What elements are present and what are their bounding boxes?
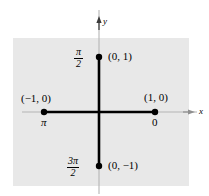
parameter-label-right: 0 <box>152 117 158 128</box>
y-axis-label: y <box>103 17 107 26</box>
data-point-right <box>152 109 158 115</box>
point-label-top: (0, 1) <box>108 51 132 62</box>
parameter-label-bottom: 3π 2 <box>67 156 79 178</box>
figure-container: y x (0, 1) (1, 0) (−1, 0) (0, −1) π 2 3π… <box>0 0 209 196</box>
data-point-left <box>41 109 47 115</box>
data-point-top <box>96 54 102 60</box>
data-point-bottom <box>96 163 102 169</box>
point-label-bottom: (0, −1) <box>108 160 138 171</box>
parameter-bottom-numerator: 3π <box>67 156 79 166</box>
point-label-left: (−1, 0) <box>21 93 51 104</box>
parameter-top-numerator: π <box>75 47 82 57</box>
point-label-right: (1, 0) <box>144 92 168 103</box>
y-axis-arrowhead <box>96 16 101 30</box>
x-axis-label: x <box>199 107 203 116</box>
parameter-label-left: π <box>41 117 47 128</box>
parameter-top-denominator: 2 <box>75 59 82 69</box>
parameter-label-top: π 2 <box>74 47 83 69</box>
parameter-bottom-denominator: 2 <box>70 168 77 178</box>
